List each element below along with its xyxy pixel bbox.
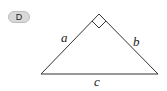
right-angle-marker bbox=[92, 21, 106, 28]
side-label-c: c bbox=[94, 75, 100, 88]
side-label-a: a bbox=[61, 31, 68, 44]
right-triangle-diagram bbox=[0, 0, 167, 91]
side-label-b: b bbox=[133, 35, 140, 48]
